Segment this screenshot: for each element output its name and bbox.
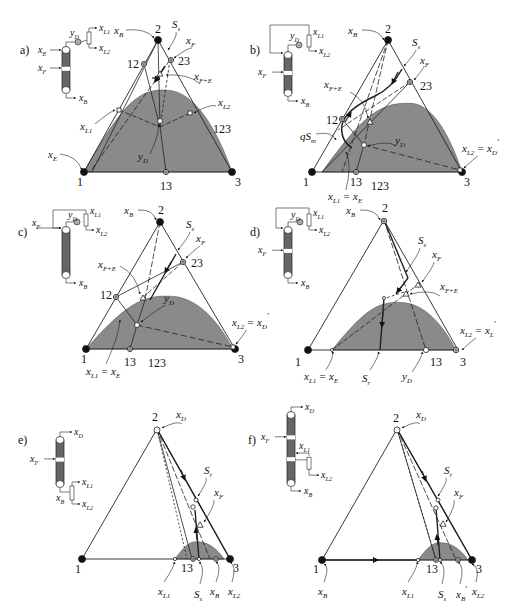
feed-stage — [62, 67, 70, 71]
stream-label-xF: xF — [29, 453, 38, 466]
point-label-12: 12 — [127, 57, 139, 71]
stream-L2 — [72, 500, 80, 504]
azeotrope-13 — [423, 347, 428, 352]
azeotrope-13 — [163, 169, 168, 174]
label-xL1-eq-xE: xL1 = xE — [327, 190, 363, 204]
vertex-2 — [154, 427, 160, 433]
label-xF: xF — [453, 486, 464, 500]
feed-stage — [284, 249, 292, 253]
leader-line — [458, 562, 462, 584]
condenser — [284, 227, 292, 234]
stream-label-xL2: xL2 — [95, 224, 107, 237]
label-yD: yD — [163, 292, 174, 306]
stream-label-xB: xB — [303, 485, 312, 498]
point-label-123: 123 — [148, 356, 166, 370]
leader-line — [440, 562, 444, 584]
leader-line — [408, 562, 417, 582]
label-Ss: Ss — [418, 234, 427, 248]
vertex-1 — [309, 169, 316, 176]
label-xB: xB — [123, 204, 134, 218]
panel-b: b)213122313123xBSsxFxF+EqSmyDxL1 = xExL2… — [250, 22, 499, 204]
mass-balance-line — [397, 429, 456, 560]
leader-line — [326, 352, 333, 370]
leader-line — [126, 30, 154, 38]
triangle-outline — [322, 429, 472, 560]
label-xB-vertex1: xB — [317, 585, 328, 599]
azeotrope-123 — [158, 119, 163, 124]
label-xE: xE — [47, 148, 58, 162]
azeotrope-12 — [141, 61, 146, 66]
leader-line — [162, 423, 182, 428]
stream-label-xL2: xL2 — [81, 498, 93, 511]
leader-line — [178, 232, 190, 250]
leader-line — [168, 32, 176, 50]
leader-line — [198, 478, 206, 496]
vapor-line — [66, 222, 74, 227]
stream-L2 — [89, 44, 97, 48]
label-xL1-eq-xE: xL1 = xE — [85, 365, 121, 379]
separatrix-dotted — [157, 429, 187, 559]
triangle-outline — [82, 429, 230, 559]
label-xL1: xL1 — [157, 585, 170, 599]
leader-line — [236, 330, 246, 344]
stream-D — [60, 432, 72, 437]
decanter — [307, 214, 311, 226]
label-Sr: Sr — [362, 372, 371, 386]
stream-L1 — [89, 28, 97, 32]
column-body — [287, 415, 295, 483]
label-xL2-eq-xD: xL2 = xD' — [461, 137, 499, 156]
label-Ss: Ss — [172, 18, 181, 32]
stream-label-xL2: xL2 — [98, 42, 110, 55]
vertex-1 — [319, 557, 326, 564]
point-Ss — [197, 557, 200, 560]
panel-e: e)21313xDSrxFxL1SsxBxL2xDxFxL1xBxL2 — [18, 408, 241, 602]
stream-L2 — [309, 226, 317, 230]
panel-a: a)213122313123xBSsxFxF+ExL2xL1yDxEyDxL1x… — [20, 18, 241, 193]
vertex-label-1: 1 — [313, 562, 319, 576]
leader-line — [360, 210, 380, 220]
stream-label-xE: xE — [37, 44, 46, 57]
stream-label-xD: xD — [304, 401, 314, 414]
separatrix-solid — [157, 429, 192, 559]
point-top — [383, 297, 386, 300]
stream-L1 — [72, 482, 80, 486]
vertex-label-1: 1 — [303, 175, 309, 189]
label-Ss: Ss — [194, 588, 203, 602]
panel-c: c)213122313123xBSsxFxF+EyDxL1 = xExL2 = … — [18, 203, 269, 379]
azeotrope-23 — [407, 79, 412, 84]
heterogeneous-region — [418, 543, 468, 560]
label-Ss: Ss — [412, 36, 421, 50]
column-body — [62, 230, 70, 275]
condenser — [287, 412, 295, 419]
azeotrope-23 — [180, 259, 185, 264]
label-yD: yD — [401, 370, 412, 384]
stream-L2 — [309, 47, 317, 51]
point-top — [434, 506, 438, 510]
panel-label: c) — [18, 225, 27, 239]
bottoms-line — [60, 488, 70, 492]
stream-L2 — [309, 469, 319, 475]
vertex-label-3: 3 — [238, 352, 244, 366]
vertex-label-1: 1 — [75, 562, 81, 576]
point-label-13: 13 — [160, 179, 172, 193]
profile-arrow — [181, 470, 184, 478]
stream-L2 — [86, 226, 94, 230]
vertex-label-1: 1 — [77, 175, 83, 189]
reboiler — [284, 90, 292, 97]
reboiler — [62, 272, 70, 279]
vertex-label-2: 2 — [382, 201, 388, 215]
stream-D — [291, 407, 303, 412]
reboiler — [56, 481, 64, 488]
label-xF: xF — [431, 248, 442, 262]
panel-label: b) — [250, 43, 260, 57]
point-xL1 — [117, 108, 121, 112]
mass-balance-line — [157, 429, 210, 559]
stream-label-xB: xB — [78, 277, 87, 290]
label-xL2-eq-xD: xL2 = xD' — [231, 311, 269, 330]
point-label-12: 12 — [326, 113, 338, 127]
column-body — [56, 440, 64, 484]
label-Ss: Ss — [186, 218, 195, 232]
decanter — [87, 32, 91, 44]
vertex-2 — [155, 37, 162, 44]
point-label-13: 13 — [350, 175, 362, 189]
